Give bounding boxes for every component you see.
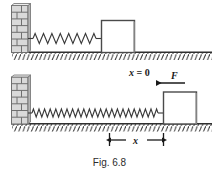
ground-bottom [11, 124, 212, 132]
force-label: F [170, 70, 178, 81]
block-relaxed [102, 21, 135, 53]
origin-label-eq: = 0 [134, 67, 150, 78]
block-displaced [164, 92, 197, 124]
physics-figure: F x = 0 x Fig. 6.8 [0, 0, 219, 176]
ground-top [11, 52, 212, 60]
displacement-label: x [132, 135, 138, 146]
origin-label: x = 0 [128, 67, 150, 78]
figure-caption: Fig. 6.8 [93, 157, 127, 168]
wall-bottom [12, 75, 31, 124]
figure-canvas: F x = 0 x Fig. 6.8 [0, 0, 219, 176]
wall-top [12, 4, 31, 53]
